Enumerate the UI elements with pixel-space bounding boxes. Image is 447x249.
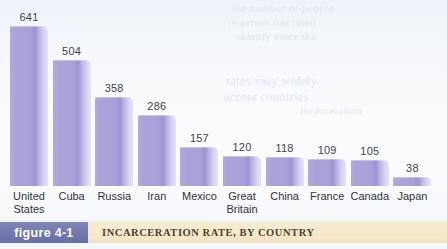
- bar-value-label: 120: [223, 141, 261, 153]
- bar[interactable]: [223, 156, 261, 186]
- bar-group: 358Russia: [95, 0, 133, 186]
- bar[interactable]: [266, 157, 304, 186]
- bar-group: 286Iran: [138, 0, 176, 186]
- bar[interactable]: [351, 160, 389, 186]
- bar-value-label: 38: [393, 162, 431, 174]
- figure-number-tag: figure 4-1: [0, 222, 88, 243]
- bar[interactable]: [308, 159, 346, 186]
- figure-caption-title: INCARCERATION RATE, BY COUNTRY: [102, 222, 315, 243]
- bar-chart-plot-area: 641United States504Cuba358Russia286Iran1…: [0, 0, 447, 188]
- figure-panel: the number of people in prison has risen…: [0, 0, 447, 249]
- bar-value-label: 358: [95, 82, 133, 94]
- bar-group: 120Great Britain: [223, 0, 261, 186]
- bar[interactable]: [10, 26, 48, 186]
- bar-category-label: Japan: [387, 190, 437, 203]
- bar-value-label: 504: [53, 45, 91, 57]
- bar-value-label: 641: [10, 11, 48, 23]
- bar-value-label: 109: [308, 144, 346, 156]
- bar-value-label: 286: [138, 100, 176, 112]
- bar[interactable]: [138, 115, 176, 186]
- bar-value-label: 118: [266, 142, 304, 154]
- bar-group: 157Mexico: [180, 0, 218, 186]
- bar[interactable]: [393, 177, 431, 186]
- bar-value-label: 157: [180, 132, 218, 144]
- bar[interactable]: [95, 97, 133, 186]
- bar[interactable]: [180, 147, 218, 186]
- bar-group: 504Cuba: [53, 0, 91, 186]
- bar-group: 641United States: [10, 0, 48, 186]
- bar-value-label: 105: [351, 145, 389, 157]
- figure-caption: figure 4-1 INCARCERATION RATE, BY COUNTR…: [0, 222, 447, 243]
- bar-group: 38Japan: [393, 0, 431, 186]
- bar-group: 109France: [308, 0, 346, 186]
- bar-group: 105Canada: [351, 0, 389, 186]
- bar[interactable]: [53, 60, 91, 186]
- bar-group: 118China: [266, 0, 304, 186]
